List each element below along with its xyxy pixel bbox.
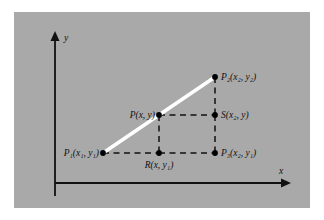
point-label-p2: P₂(x₂, y₂) — [220, 72, 256, 83]
point-label-s: S(x₂, y) — [221, 110, 249, 121]
x-axis-label: x — [278, 166, 284, 176]
figure-root: y x P₁(x₁, y₁) P(x, y) S(x₂, y) — [0, 0, 324, 220]
point-label-p3: P₃(x₂, y₁) — [220, 148, 256, 159]
y-axis-label: y — [63, 33, 69, 43]
y-axis-arrowhead-icon — [51, 31, 60, 41]
point-dot-s — [212, 112, 218, 118]
point-label-p1: P₁(x₁, y₁) — [63, 148, 99, 159]
point-dot-p1 — [100, 150, 106, 156]
point-dot-p2 — [212, 74, 218, 80]
point-dot-r — [156, 150, 162, 156]
point-dot-p — [156, 112, 162, 118]
point-labels-group: P₁(x₁, y₁) P(x, y) S(x₂, y) P₂(x₂, y₂) R… — [63, 72, 256, 171]
coordinate-diagram: y x P₁(x₁, y₁) P(x, y) S(x₂, y) — [0, 0, 324, 220]
point-label-p: P(x, y) — [129, 110, 155, 121]
axes-group: y x — [51, 31, 292, 196]
point-dot-p3 — [212, 150, 218, 156]
x-axis-arrowhead-icon — [281, 179, 291, 188]
point-label-r: R(x, y₁) — [144, 160, 174, 171]
